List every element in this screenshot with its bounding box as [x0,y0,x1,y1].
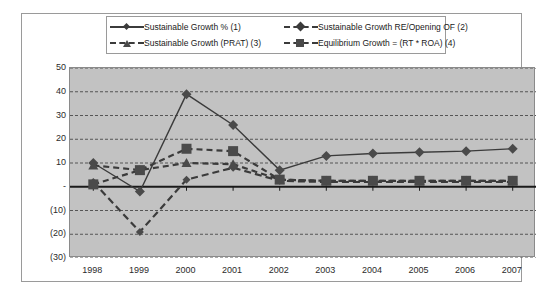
x-axis-tick-label: 2003 [303,264,347,276]
x-axis-tick-label: 2006 [443,264,487,276]
x-axis-tick-label: 2001 [210,264,254,276]
legend-label-series-3: Sustainable Growth (PRAT) (3) [144,37,261,49]
marker-diamond [368,149,378,159]
x-axis-tick-label: 1998 [70,264,114,276]
marker-square [461,176,471,186]
marker-square [182,144,192,154]
y-axis-tick-label: 10 [26,157,66,167]
marker-square [135,165,145,175]
x-axis-tick-label: 2007 [490,264,534,276]
plot-svg [70,68,536,258]
legend-item-sustainable-growth-prat[interactable]: Sustainable Growth (PRAT) (3) [110,35,284,51]
marker-diamond [135,187,145,197]
legend-label-series-2: Sustainable Growth RE/Opening OF (2) [318,21,468,33]
x-axis-labels: 1998199920002001200220032004200520062007 [69,264,535,280]
marker-triangle [228,159,238,168]
series-line-2 [93,168,512,232]
y-axis-tick-label: 40 [26,86,66,96]
marker-diamond [415,147,425,157]
legend-key-series-4 [284,37,318,49]
x-axis-tick-label: 2004 [350,264,394,276]
marker-diamond [461,146,471,156]
series-line-3 [93,163,512,181]
y-axis-labels: 5040302010-(10)(20)(30) [22,67,66,257]
y-axis-tick-label: 20 [26,133,66,143]
marker-square [88,179,98,189]
legend-item-equilibrium-growth[interactable]: Equilibrium Growth = (RT * ROA) (4) [284,35,442,51]
y-axis-tick-label: - [26,181,66,191]
marker-square [321,176,331,186]
marker-square [508,176,518,186]
plot-area [69,67,535,257]
y-axis-tick-label: (20) [26,228,66,238]
x-axis-tick-label: 2005 [397,264,441,276]
legend-key-series-3 [110,37,144,49]
y-axis-tick-label: (10) [26,205,66,215]
chart-frame: Sustainable Growth % (1) Sustainable Gro… [21,13,522,282]
legend-item-sustainable-growth-re[interactable]: Sustainable Growth RE/Opening OF (2) [284,19,442,35]
marker-square [228,146,238,156]
legend-key-series-1 [110,21,144,33]
legend-label-series-1: Sustainable Growth % (1) [144,21,241,33]
x-axis-tick-label: 2000 [164,264,208,276]
y-axis-tick-label: 50 [26,62,66,72]
legend-key-series-2 [284,21,318,33]
legend-label-series-4: Equilibrium Growth = (RT * ROA) (4) [318,37,455,49]
legend-row-2: Sustainable Growth (PRAT) (3) Equilibriu… [110,35,442,51]
legend-item-sustainable-growth-pct[interactable]: Sustainable Growth % (1) [110,19,284,35]
marker-square [275,175,285,185]
legend-row-1: Sustainable Growth % (1) Sustainable Gro… [110,19,442,35]
marker-diamond [508,144,518,154]
marker-diamond [182,89,192,99]
marker-square [368,176,378,186]
y-axis-tick-label: 30 [26,110,66,120]
x-axis-tick-label: 1999 [117,264,161,276]
y-axis-tick-label: (30) [26,252,66,262]
x-axis-tick-label: 2002 [257,264,301,276]
chart-legend: Sustainable Growth % (1) Sustainable Gro… [106,16,446,54]
series-line-1 [93,94,512,191]
marker-diamond [321,151,331,161]
marker-square [415,176,425,186]
